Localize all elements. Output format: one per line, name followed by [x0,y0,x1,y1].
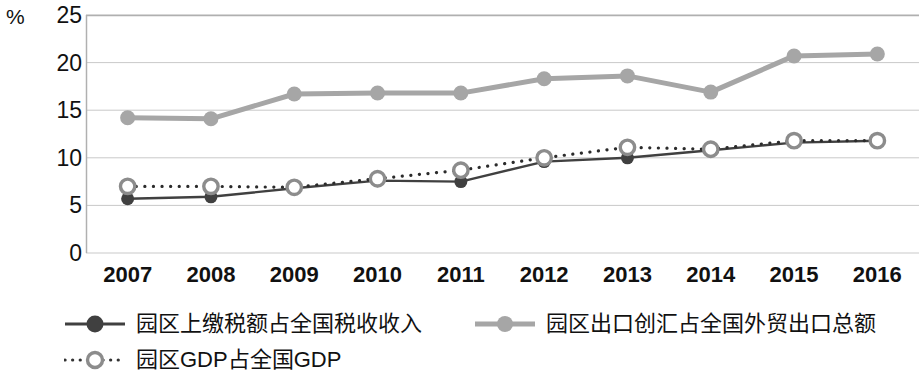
series-line-2 [128,141,878,188]
legend-label-tax: 园区上缴税额占全国税收收入 [136,312,422,336]
legend-item-gdp: 园区GDP占全国GDP [64,343,341,377]
x-axis-tick-2015: 2015 [752,258,835,292]
y-axis-tick-15: 15 [34,99,82,122]
chart-legend: 园区上缴税额占全国税收收入 园区出口创汇占全国外贸出口总额 园区GDP占全国GD… [0,305,919,378]
data-point-2-7 [704,142,718,156]
data-point-2-2 [287,180,301,194]
y-axis-unit-label: % [6,6,25,27]
y-axis-tick-10: 10 [34,147,82,170]
y-axis-tick-0: 0 [34,242,82,265]
legend-label-gdp: 园区GDP占全国GDP [136,348,341,372]
data-point-2-9 [870,133,884,147]
data-point-1-3 [370,86,385,101]
series-line-1 [128,54,878,119]
data-point-1-6 [620,68,635,83]
y-axis-tick-20: 20 [34,52,82,75]
data-point-2-5 [537,151,551,165]
data-point-2-8 [787,133,801,147]
data-point-1-4 [453,86,468,101]
y-axis-tick-5: 5 [34,194,82,217]
data-point-1-1 [203,111,218,126]
data-point-2-6 [620,140,634,154]
data-point-1-2 [287,87,302,102]
x-axis-tick-2007: 2007 [86,258,169,292]
x-axis-tick-2010: 2010 [336,258,419,292]
data-point-1-7 [703,85,718,100]
x-axis-tick-2014: 2014 [669,258,752,292]
line-chart: % 0510152025 200720082009201020112012201… [0,0,919,378]
x-axis-tick-2012: 2012 [502,258,585,292]
data-point-1-8 [787,48,802,63]
data-point-1-9 [870,47,885,62]
x-axis-tick-2011: 2011 [419,258,502,292]
x-axis-tick-labels: 2007200820092010201120122013201420152016 [86,258,919,292]
legend-label-export: 园区出口创汇占全国外贸出口总额 [546,312,876,336]
data-point-1-5 [537,71,552,86]
plot-svg [86,15,919,253]
y-axis-tick-25: 25 [34,4,82,27]
data-point-1-0 [120,110,135,125]
legend-item-tax: 园区上缴税额占全国税收收入 [64,307,422,341]
x-axis-tick-2013: 2013 [586,258,669,292]
data-point-2-1 [204,179,218,193]
x-axis-tick-2008: 2008 [169,258,252,292]
legend-marker-dotted-hollow-icon [64,349,126,371]
data-point-2-0 [120,179,134,193]
plot-area [86,15,919,253]
legend-marker-solid-gray-icon [474,313,536,335]
data-point-2-4 [454,163,468,177]
data-point-2-3 [370,172,384,186]
x-axis-tick-2009: 2009 [253,258,336,292]
x-axis-tick-2016: 2016 [836,258,919,292]
series-line-0 [128,141,878,199]
legend-item-export: 园区出口创汇占全国外贸出口总额 [474,307,876,341]
legend-marker-solid-filled-icon [64,313,126,335]
